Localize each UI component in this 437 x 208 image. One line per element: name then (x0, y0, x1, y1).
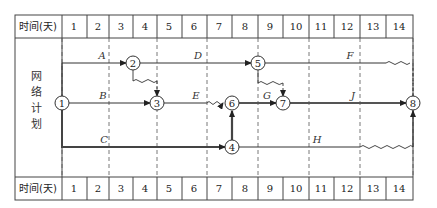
node-3: 3 (150, 96, 164, 110)
svg-text:8: 8 (242, 183, 248, 194)
svg-text:8: 8 (410, 98, 416, 109)
activity-J: J (290, 90, 406, 103)
svg-text:C: C (100, 134, 108, 145)
svg-text:B: B (98, 90, 106, 101)
svg-text:12: 12 (341, 21, 354, 32)
svg-text:6: 6 (191, 183, 197, 194)
activity-G: G (239, 90, 276, 103)
activity-F: F (265, 50, 413, 96)
activity-A: A (62, 50, 126, 96)
node-2: 2 (126, 56, 140, 70)
node-4: 4 (225, 140, 239, 154)
node-1: 1 (55, 96, 69, 110)
svg-text:5: 5 (255, 58, 261, 69)
svg-text:10: 10 (290, 21, 303, 32)
footer-days: 1 2 3 4 5 6 7 8 9 10 11 12 13 14 (71, 183, 406, 194)
svg-text:5: 5 (166, 183, 172, 194)
svg-text:4: 4 (229, 142, 235, 153)
footer-label: 时间(天) (19, 182, 57, 194)
side-label: 网 络 计 划 (31, 70, 42, 131)
svg-text:2: 2 (130, 58, 136, 69)
svg-text:2: 2 (95, 21, 101, 32)
svg-text:计: 计 (31, 102, 42, 115)
svg-text:9: 9 (267, 21, 273, 32)
svg-text:10: 10 (290, 183, 303, 194)
svg-text:1: 1 (71, 21, 77, 32)
activity-E: E (164, 90, 223, 105)
svg-text:G: G (263, 90, 271, 101)
svg-text:网: 网 (31, 70, 42, 83)
svg-text:3: 3 (154, 98, 160, 109)
svg-text:1: 1 (71, 183, 77, 194)
activity-C: C (62, 110, 225, 147)
svg-text:络: 络 (31, 85, 42, 99)
table-frame (15, 15, 413, 200)
svg-text:1: 1 (59, 98, 65, 109)
svg-text:5: 5 (166, 21, 172, 32)
svg-text:J: J (349, 90, 356, 101)
svg-text:F: F (346, 50, 355, 61)
node-8: 8 (406, 96, 420, 110)
time-scaled-network-diagram: 时间(天) 1 2 3 4 5 6 7 8 9 10 11 12 13 14 时… (0, 0, 437, 208)
svg-text:3: 3 (118, 183, 124, 194)
dummy-2-3 (133, 70, 157, 96)
svg-text:11: 11 (315, 183, 328, 194)
svg-text:12: 12 (341, 183, 354, 194)
svg-text:13: 13 (367, 21, 380, 32)
svg-text:6: 6 (191, 21, 197, 32)
svg-text:A: A (97, 50, 105, 61)
svg-text:4: 4 (142, 21, 148, 32)
svg-text:11: 11 (315, 21, 328, 32)
svg-text:3: 3 (118, 21, 124, 32)
svg-text:6: 6 (229, 98, 235, 109)
svg-text:8: 8 (242, 21, 248, 32)
svg-text:D: D (193, 50, 202, 61)
activity-B: B (69, 90, 150, 103)
svg-text:14: 14 (393, 21, 406, 32)
svg-text:2: 2 (95, 183, 101, 194)
svg-text:7: 7 (216, 21, 222, 32)
svg-text:H: H (312, 134, 322, 145)
svg-text:7: 7 (280, 98, 286, 109)
svg-text:13: 13 (367, 183, 380, 194)
node-6: 6 (225, 96, 239, 110)
svg-text:9: 9 (267, 183, 273, 194)
svg-text:E: E (191, 90, 200, 101)
header-label: 时间(天) (19, 20, 57, 32)
node-7: 7 (276, 96, 290, 110)
node-5: 5 (251, 56, 265, 70)
svg-text:7: 7 (216, 183, 222, 194)
svg-text:划: 划 (31, 118, 42, 131)
svg-text:4: 4 (142, 183, 148, 194)
svg-text:14: 14 (393, 183, 406, 194)
activity-H: H (239, 111, 413, 149)
header-days: 1 2 3 4 5 6 7 8 9 10 11 12 13 14 (71, 21, 406, 32)
